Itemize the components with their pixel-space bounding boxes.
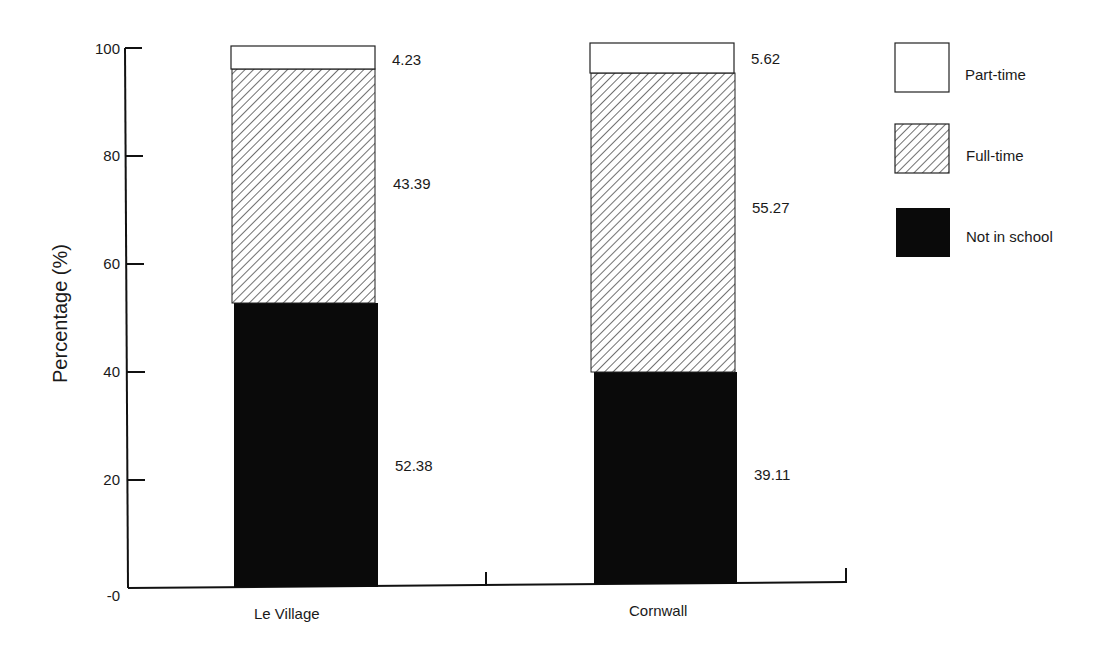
value-label-cornwall-not-in-school: 39.11 (754, 466, 790, 483)
y-axis (125, 48, 145, 588)
segment-not-in-school (234, 303, 378, 587)
chart-canvas (0, 0, 1112, 665)
legend-swatches (895, 43, 950, 257)
y-axis-label: Percentage (%) (49, 239, 72, 389)
y-tick-80: 80 (80, 147, 120, 164)
legend-label-full-time: Full-time (966, 147, 1024, 164)
segment-part-time (590, 43, 734, 73)
value-label-cornwall-part-time: 5.62 (751, 50, 780, 67)
legend-swatch-part-time (895, 43, 949, 92)
x-tick-le-village: Le Village (254, 605, 320, 622)
x-tick-cornwall: Cornwall (629, 602, 687, 619)
legend-swatch-full-time (895, 124, 949, 173)
segment-not-in-school (594, 372, 737, 584)
segment-full-time (591, 73, 735, 372)
y-tick-100: 100 (80, 40, 120, 57)
y-tick-20: 20 (80, 471, 120, 488)
legend-label-not-in-school: Not in school (966, 228, 1053, 245)
value-label-cornwall-full-time: 55.27 (752, 199, 790, 216)
value-label-le-village-not-in-school: 52.38 (395, 457, 433, 474)
y-tick-40: 40 (80, 363, 120, 380)
value-label-le-village-part-time: 4.23 (392, 51, 421, 68)
y-tick-0: -0 (80, 587, 120, 604)
legend-label-part-time: Part-time (965, 66, 1026, 83)
value-label-le-village-full-time: 43.39 (393, 175, 431, 192)
bar-le-village (231, 46, 378, 587)
bar-cornwall (590, 43, 737, 584)
segment-full-time (232, 69, 375, 303)
y-tick-60: 60 (80, 255, 120, 272)
legend-swatch-not-in-school (896, 208, 950, 257)
segment-part-time (231, 46, 375, 69)
